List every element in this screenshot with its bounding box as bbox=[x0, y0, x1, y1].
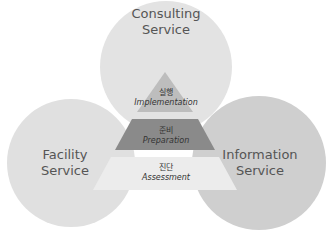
tier-middle-korean: 준비 bbox=[116, 126, 216, 136]
facility-service-label: Facility Service bbox=[25, 147, 105, 179]
consulting-label-line1: Consulting bbox=[116, 6, 216, 22]
tier-bottom-english: Assessment bbox=[116, 173, 216, 183]
tier-top-label: 실행 Implementation bbox=[116, 88, 216, 108]
information-label-line2: Service bbox=[213, 163, 307, 179]
facility-label-line2: Service bbox=[25, 163, 105, 179]
tier-top-korean: 실행 bbox=[116, 88, 216, 98]
consulting-label-line2: Service bbox=[116, 22, 216, 38]
tier-top-english: Implementation bbox=[116, 98, 216, 108]
service-diagram: Consulting Service Facility Service Info… bbox=[0, 0, 326, 236]
tier-bottom-label: 진단 Assessment bbox=[116, 163, 216, 183]
tier-bottom-korean: 진단 bbox=[116, 163, 216, 173]
tier-middle-label: 준비 Preparation bbox=[116, 126, 216, 146]
information-service-label: Information Service bbox=[213, 147, 307, 179]
consulting-service-label: Consulting Service bbox=[116, 6, 216, 38]
facility-label-line1: Facility bbox=[25, 147, 105, 163]
information-label-line1: Information bbox=[213, 147, 307, 163]
tier-middle-english: Preparation bbox=[116, 136, 216, 146]
pyramid-gap bbox=[140, 150, 190, 156]
